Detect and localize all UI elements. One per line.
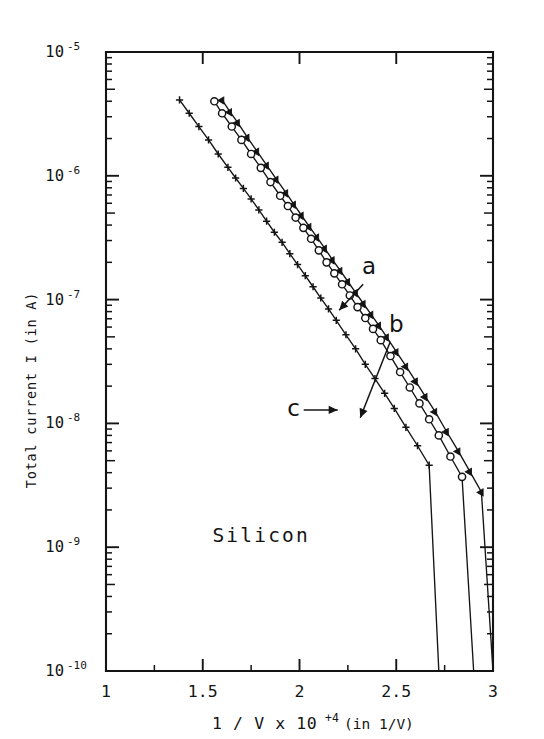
marker-b <box>338 281 345 288</box>
y-tick-label: 10 <box>45 291 64 309</box>
y-tick-label: 10 <box>45 538 64 556</box>
marker-b <box>369 325 376 332</box>
marker-c <box>381 390 388 397</box>
y-tick-label: 10 <box>45 43 64 61</box>
marker-b <box>300 224 307 231</box>
axis-labels-group: 10-510-610-710-810-910-1011.522.531 / V … <box>23 40 498 733</box>
markers-group <box>176 95 486 496</box>
x-tick-label: 1 <box>101 682 111 701</box>
x-axis-title-exponent: +4 <box>325 711 339 725</box>
y-axis-title: Total current I (in A) <box>23 292 39 488</box>
y-tick-label-exponent: -9 <box>67 535 80 548</box>
marker-b <box>362 314 369 321</box>
marker-c <box>426 462 433 469</box>
curve-label-b: b <box>389 311 404 337</box>
marker-a <box>411 376 420 385</box>
y-tick-label-exponent: -8 <box>67 411 80 424</box>
sample-annotation: Silicon <box>212 524 310 547</box>
marker-b <box>228 123 235 130</box>
marker-b <box>331 270 338 277</box>
y-tick-label-exponent: -5 <box>67 40 80 53</box>
y-tick-label-exponent: -7 <box>67 288 80 301</box>
series-line-c <box>180 100 439 671</box>
marker-b <box>387 352 394 359</box>
marker-b <box>397 368 404 375</box>
marker-a <box>442 427 451 436</box>
marker-b <box>257 164 264 171</box>
y-tick-label: 10 <box>45 662 64 680</box>
marker-c <box>414 442 421 449</box>
marker-b <box>284 202 291 209</box>
marker-b <box>315 247 322 254</box>
marker-b <box>211 98 218 105</box>
marker-c <box>391 405 398 412</box>
curve-label-c-arrowhead <box>329 406 338 414</box>
curves-group <box>180 100 493 671</box>
x-tick-label: 2.5 <box>381 682 411 701</box>
marker-b <box>267 178 274 185</box>
marker-b <box>435 432 442 439</box>
x-tick-label: 2 <box>295 682 305 701</box>
marker-b <box>292 214 299 221</box>
marker-a <box>477 487 486 496</box>
marker-b <box>447 453 454 460</box>
marker-b <box>238 136 245 143</box>
x-tick-label: 1.5 <box>188 682 218 701</box>
y-tick-label-exponent: -6 <box>67 164 80 177</box>
x-axis-title-unit: (in 1/V) <box>344 716 414 732</box>
chart-canvas: abc 10-510-610-710-810-910-1011.522.531 … <box>0 0 544 739</box>
curve-label-a: a <box>362 253 376 279</box>
marker-b <box>416 400 423 407</box>
marker-a <box>421 392 430 401</box>
marker-b <box>248 150 255 157</box>
marker-a <box>454 446 463 455</box>
marker-a <box>465 467 474 476</box>
marker-b <box>277 192 284 199</box>
curve-label-b-leader <box>360 342 390 418</box>
marker-b <box>323 259 330 266</box>
y-tick-label: 10 <box>45 167 64 185</box>
marker-b <box>458 473 465 480</box>
y-tick-label: 10 <box>45 414 64 432</box>
x-tick-label: 3 <box>488 682 498 701</box>
marker-b <box>354 303 361 310</box>
curve-label-c: c <box>287 395 300 421</box>
marker-b <box>219 110 226 117</box>
marker-b <box>406 384 413 391</box>
series-line-a <box>222 100 493 671</box>
marker-b <box>308 235 315 242</box>
x-axis-title: 1 / V x 10 <box>212 714 317 733</box>
marker-b <box>377 337 384 344</box>
marker-a <box>218 95 227 104</box>
y-tick-label-exponent: -10 <box>67 659 87 672</box>
figure-container: abc 10-510-610-710-810-910-1011.522.531 … <box>0 0 544 739</box>
marker-b <box>426 416 433 423</box>
marker-a <box>430 407 439 416</box>
marker-c <box>402 424 409 431</box>
